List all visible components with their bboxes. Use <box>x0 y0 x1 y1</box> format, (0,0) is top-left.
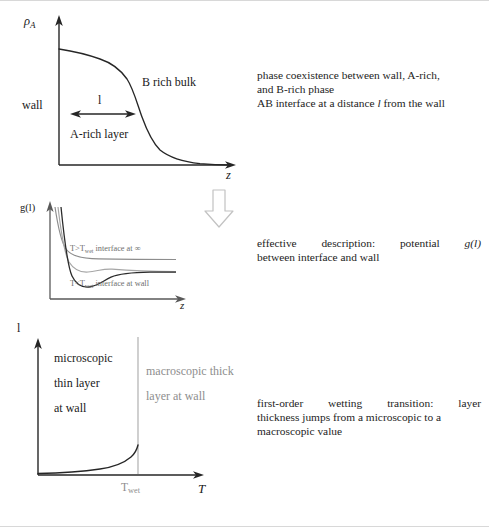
panel1-caption-line1: phase coexistence between wall, A-rich, <box>257 69 481 83</box>
panel1-caption-line2: and B-rich phase <box>257 83 481 97</box>
y-axis <box>46 201 53 299</box>
g-of-l-symbol: g(l) <box>465 237 481 251</box>
macroscopic-line1: macroscopic thick <box>146 365 234 377</box>
l-axis-label: l <box>17 322 20 334</box>
potential-curve-at-twet <box>58 207 176 272</box>
z-axis-label: z <box>226 169 231 182</box>
panel3-caption-line2: thickness jumps from a microscopic to a <box>257 411 481 425</box>
a-rich-layer-label: A-rich layer <box>70 128 128 140</box>
x-axis <box>59 161 236 169</box>
length-l-label: l <box>98 94 101 106</box>
panel2-caption-line1: effective description: potential g(l) <box>257 237 481 251</box>
density-profile-plot <box>0 1 250 186</box>
layer-thickness-plot <box>0 319 250 527</box>
panel2-caption: effective description: potential g(l) be… <box>257 237 481 265</box>
rho-a-axis-label: ρA <box>24 15 36 30</box>
microscopic-line2: thin layer <box>54 377 100 389</box>
density-profile-panel: ρA z wall B rich bulk A-rich layer l <box>0 1 250 186</box>
below-twet-note: T<Twet interface at wall <box>70 280 149 290</box>
twet-label: Twet <box>121 482 140 496</box>
length-arrow <box>70 110 136 118</box>
density-curve <box>59 49 231 165</box>
above-twet-note: T>Twet interface at ∞ <box>70 245 141 255</box>
effective-potential-panel: g(l) z T>Twet interface at ∞ T<Twet inte… <box>0 187 250 315</box>
panel1-caption-line3: AB interface at a distance l from the wa… <box>257 97 481 111</box>
microscopic-line1: microscopic <box>54 352 113 364</box>
rho-a-subscript: A <box>30 20 36 30</box>
macroscopic-line2: layer at wall <box>146 390 205 402</box>
panel3-caption-line1: first-order wetting transition: layer <box>257 397 481 411</box>
layer-thickness-panel: l T Twet microscopic thin layer at wall … <box>0 319 250 527</box>
layer-thickness-curve <box>38 445 138 474</box>
bulk-label: B rich bulk <box>142 76 196 88</box>
panel2-caption-line2: between interface and wall <box>257 251 481 265</box>
x-axis <box>50 295 186 303</box>
wetting-transition-figure: ρA z wall B rich bulk A-rich layer l pha… <box>0 0 489 527</box>
t-axis-label: T <box>198 482 205 495</box>
y-axis <box>55 15 63 165</box>
microscopic-line3: at wall <box>54 402 86 414</box>
wall-label: wall <box>22 99 43 111</box>
panel3-caption: first-order wetting transition: layer th… <box>257 397 481 439</box>
z-axis-label-panel2: z <box>180 300 184 311</box>
panel3-caption-line3: macroscopic value <box>257 425 481 439</box>
panel1-caption: phase coexistence between wall, A-rich, … <box>257 69 481 111</box>
y-axis <box>34 338 42 475</box>
g-of-l-axis-label: g(l) <box>20 203 35 214</box>
